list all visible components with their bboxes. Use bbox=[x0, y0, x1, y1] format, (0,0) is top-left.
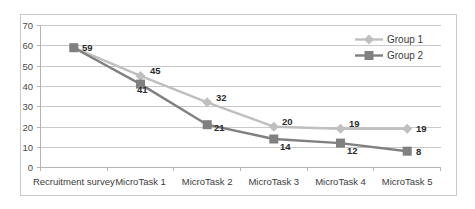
x-tick-label-microtask-2: MicroTask 2 bbox=[182, 176, 233, 187]
marker-diamond-1 bbox=[136, 71, 146, 81]
y-axis-tick-labels: 70 60 50 40 30 20 10 0 bbox=[22, 20, 33, 173]
marker-square-0 bbox=[69, 43, 78, 52]
marker-diamond-5 bbox=[402, 124, 412, 134]
data-label-group2-microtask5: 8 bbox=[416, 146, 421, 157]
data-label-group2-microtask4: 12 bbox=[347, 145, 358, 156]
y-tick-label-30: 30 bbox=[22, 101, 33, 112]
y-tick-label-50: 50 bbox=[22, 61, 33, 72]
y-tick-label-70: 70 bbox=[22, 20, 33, 31]
data-label-group1-microtask3: 20 bbox=[282, 116, 293, 127]
y-tick-label-10: 10 bbox=[22, 142, 33, 153]
legend-label-group-2: Group 2 bbox=[387, 50, 424, 61]
y-tick-label-60: 60 bbox=[22, 40, 33, 51]
x-tick-label-microtask-1: MicroTask 1 bbox=[115, 176, 166, 187]
x-axis-tick-labels: Recruitment survey MicroTask 1 MicroTask… bbox=[33, 176, 433, 187]
data-labels: 59 45 32 20 19 19 41 21 14 12 8 bbox=[82, 42, 427, 157]
series-group-2-markers bbox=[69, 43, 411, 156]
y-tickmarks bbox=[37, 26, 41, 168]
marker-diamond-4 bbox=[336, 124, 346, 134]
data-label-group1-microtask5: 19 bbox=[416, 123, 427, 134]
x-tick-label-recruitment-survey: Recruitment survey bbox=[33, 176, 115, 187]
data-label-group1-microtask2: 32 bbox=[216, 92, 227, 103]
chart-container: 70 60 50 40 30 20 10 0 Recruitment surve… bbox=[0, 0, 475, 209]
data-label-group2-microtask2: 21 bbox=[214, 122, 225, 133]
marker-square-5 bbox=[403, 147, 412, 156]
x-tick-label-microtask-5: MicroTask 5 bbox=[382, 176, 433, 187]
x-tick-label-microtask-3: MicroTask 3 bbox=[248, 176, 299, 187]
data-label-group2-microtask1: 41 bbox=[137, 84, 148, 95]
series-group-1-line bbox=[74, 48, 407, 129]
data-label-group1-microtask1: 45 bbox=[150, 65, 161, 76]
marker-diamond-3 bbox=[269, 122, 279, 132]
legend: Group 1 Group 2 bbox=[355, 34, 424, 61]
data-label-group1-microtask4: 19 bbox=[349, 118, 360, 129]
line-chart-plot: 70 60 50 40 30 20 10 0 Recruitment surve… bbox=[0, 0, 475, 209]
series-group-2 bbox=[69, 43, 411, 156]
marker-diamond-2 bbox=[202, 97, 212, 107]
marker-square-4 bbox=[336, 139, 345, 148]
y-tick-label-20: 20 bbox=[22, 122, 33, 133]
legend-marker-diamond-group-1 bbox=[364, 35, 374, 45]
x-tick-label-microtask-4: MicroTask 4 bbox=[315, 176, 366, 187]
x-tickmarks bbox=[41, 168, 441, 172]
series-group-2-line bbox=[74, 48, 407, 152]
legend-item-group-1[interactable]: Group 1 bbox=[355, 34, 424, 45]
legend-marker-square-group-2 bbox=[365, 51, 374, 60]
data-label-group2-microtask3: 14 bbox=[280, 141, 291, 152]
y-tick-label-40: 40 bbox=[22, 81, 33, 92]
legend-item-group-2[interactable]: Group 2 bbox=[355, 50, 424, 61]
y-tick-label-0: 0 bbox=[28, 162, 33, 173]
marker-square-3 bbox=[269, 135, 278, 144]
data-label-shared-0: 59 bbox=[82, 42, 93, 53]
legend-label-group-1: Group 1 bbox=[387, 34, 424, 45]
marker-square-2 bbox=[203, 120, 212, 129]
